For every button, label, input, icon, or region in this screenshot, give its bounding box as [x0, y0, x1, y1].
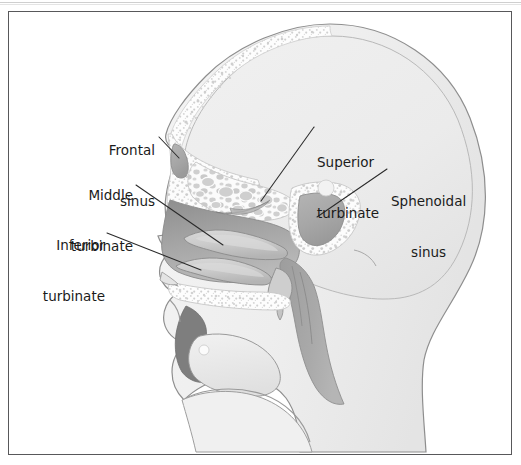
- label-superior-turbinate-line2: turbinate: [317, 205, 379, 222]
- label-inferior-turbinate-line2: turbinate: [43, 288, 105, 305]
- label-sphenoidal-sinus-line1: Sphenoidal: [391, 193, 466, 210]
- label-superior-turbinate-line1: Superior: [317, 154, 379, 171]
- figure-panel: Frontal sinus Middle turbinate Inferior …: [0, 0, 521, 465]
- label-sphenoidal-sinus: Sphenoidal sinus: [391, 159, 466, 295]
- tongue-tip-highlight: [199, 345, 209, 355]
- label-sphenoidal-sinus-line2: sinus: [391, 244, 466, 261]
- label-middle-turbinate-line1: Middle: [71, 187, 133, 204]
- label-inferior-turbinate-line1: Inferior: [43, 237, 105, 254]
- label-inferior-turbinate: Inferior turbinate: [43, 203, 105, 339]
- label-superior-turbinate: Superior turbinate: [317, 120, 379, 256]
